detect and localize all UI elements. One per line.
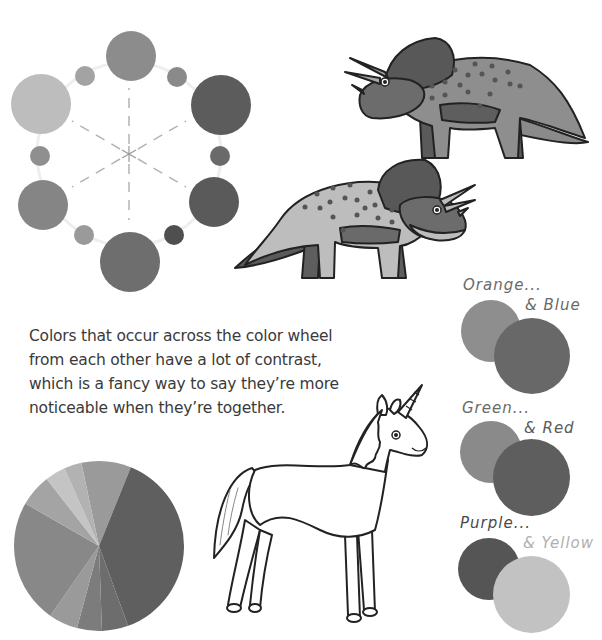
color-pie-illustration — [0, 440, 200, 640]
wheel-circle-yellow — [11, 74, 71, 134]
pair-purple-yellow: Purple... & Yellow — [450, 510, 602, 640]
wheel-circle-yellow-orange — [75, 66, 95, 86]
yellow-swatch — [493, 556, 570, 633]
pair-first-label: Green... — [462, 399, 530, 417]
wheel-circle-blue-green — [74, 225, 94, 245]
red-swatch — [493, 439, 570, 516]
pair-orange-blue: Orange... & Blue — [450, 270, 602, 400]
pair-green-red: Green... & Red — [450, 395, 602, 525]
description-line: from each other have a lot of contrast, — [29, 348, 429, 372]
pair-first-label: Orange... — [463, 276, 542, 294]
pair-second-label: & Red — [524, 419, 575, 437]
asterisk-icon — [122, 146, 136, 162]
wheel-circle-red — [191, 75, 251, 135]
pair-first-label: Purple... — [460, 514, 531, 532]
pair-second-label: & Blue — [525, 296, 581, 314]
triceratops-dark-illustration — [340, 30, 602, 170]
pair-second-label: & Yellow — [523, 534, 594, 552]
triceratops-light-illustration — [230, 150, 480, 280]
description-line: Colors that occur across the color wheel — [29, 324, 429, 348]
wheel-circle-yellow-green — [30, 146, 50, 166]
wheel-circle-orange — [106, 31, 156, 81]
wheel-circle-red-orange — [167, 67, 187, 87]
blue-swatch — [494, 318, 570, 394]
wheel-circle-green — [18, 180, 68, 230]
unicorn-illustration — [200, 380, 450, 640]
wheel-circle-blue — [100, 232, 160, 292]
wheel-circle-red-purple — [210, 146, 230, 166]
wheel-circle-blue-purple — [164, 225, 184, 245]
